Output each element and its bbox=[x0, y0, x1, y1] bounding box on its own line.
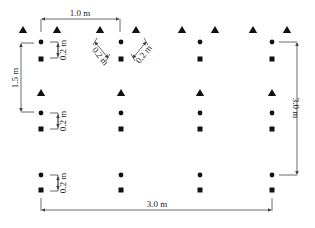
square-marker-icon bbox=[198, 188, 203, 193]
offset-diagonal-left: 0.2 m bbox=[90, 38, 111, 67]
triangle-marker-icon bbox=[37, 89, 45, 96]
square-marker-icon bbox=[119, 127, 124, 132]
label-0-2m-row2: 0.2 m bbox=[58, 111, 68, 132]
triangle-marker-icon bbox=[249, 26, 257, 33]
square-marker-icon bbox=[198, 127, 203, 132]
dimension-3m-horizontal: 3.0 m bbox=[41, 198, 272, 211]
triangle-marker-icon bbox=[211, 26, 219, 33]
label-3m-vertical: 3.0 m bbox=[291, 98, 301, 119]
circle-marker-icon bbox=[39, 111, 44, 116]
square-marker-icon bbox=[270, 188, 275, 193]
offset-row1: 0.2 m bbox=[50, 40, 68, 61]
dimension-1m: 1.0 m bbox=[41, 8, 120, 32]
label-3m-horizontal: 3.0 m bbox=[147, 199, 168, 209]
label-1m: 1.0 m bbox=[70, 8, 91, 18]
offset-row3: 0.2 m bbox=[50, 173, 68, 194]
square-marker-icon bbox=[119, 57, 124, 62]
square-marker-icon bbox=[270, 57, 275, 62]
circle-marker-icon bbox=[39, 40, 44, 45]
circle-marker-icon bbox=[270, 40, 275, 45]
offset-diagonal-right: 0.2 m bbox=[131, 38, 154, 65]
triangle-marker-icon bbox=[178, 26, 186, 33]
circle-marker-icon bbox=[119, 40, 124, 45]
square-marker-icon bbox=[39, 188, 44, 193]
circle-marker-icon bbox=[119, 173, 124, 178]
circle-marker-icon bbox=[270, 111, 275, 116]
layout-diagram: 1.0 m 1.5 m 0.2 m 0.2 m 0.2 m 0.2 m 0.2 … bbox=[0, 0, 315, 228]
dimension-3m-vertical: 3.0 m bbox=[279, 42, 301, 175]
circle-marker-icon bbox=[198, 40, 203, 45]
square-marker-icon bbox=[119, 188, 124, 193]
label-0-2m-diag-left: 0.2 m bbox=[90, 45, 111, 67]
dimension-1-5m: 1.5 m bbox=[10, 43, 34, 112]
square-marker-icon bbox=[39, 57, 44, 62]
label-0-2m-vertical: 0.2 m bbox=[58, 40, 68, 61]
circle-marker-icon bbox=[270, 173, 275, 178]
circle-marker-icon bbox=[119, 111, 124, 116]
triangle-marker-icon bbox=[132, 26, 140, 33]
triangle-marker-icon bbox=[117, 89, 125, 96]
triangle-marker-icon bbox=[19, 26, 27, 33]
circle-marker-icon bbox=[198, 173, 203, 178]
label-0-2m-diag-right: 0.2 m bbox=[133, 43, 154, 65]
triangle-marker-icon bbox=[196, 89, 204, 96]
label-1-5m: 1.5 m bbox=[10, 68, 20, 89]
offset-row2: 0.2 m bbox=[50, 111, 68, 132]
square-marker-icon bbox=[39, 127, 44, 132]
triangle-marker-icon bbox=[53, 26, 61, 33]
label-0-2m-row3: 0.2 m bbox=[58, 173, 68, 194]
triangle-marker-icon bbox=[96, 26, 104, 33]
triangle-marker-icon bbox=[283, 26, 291, 33]
triangle-marker-icon bbox=[268, 89, 276, 96]
circle-marker-icon bbox=[198, 111, 203, 116]
square-marker-icon bbox=[198, 57, 203, 62]
square-marker-icon bbox=[270, 127, 275, 132]
circle-marker-icon bbox=[39, 173, 44, 178]
